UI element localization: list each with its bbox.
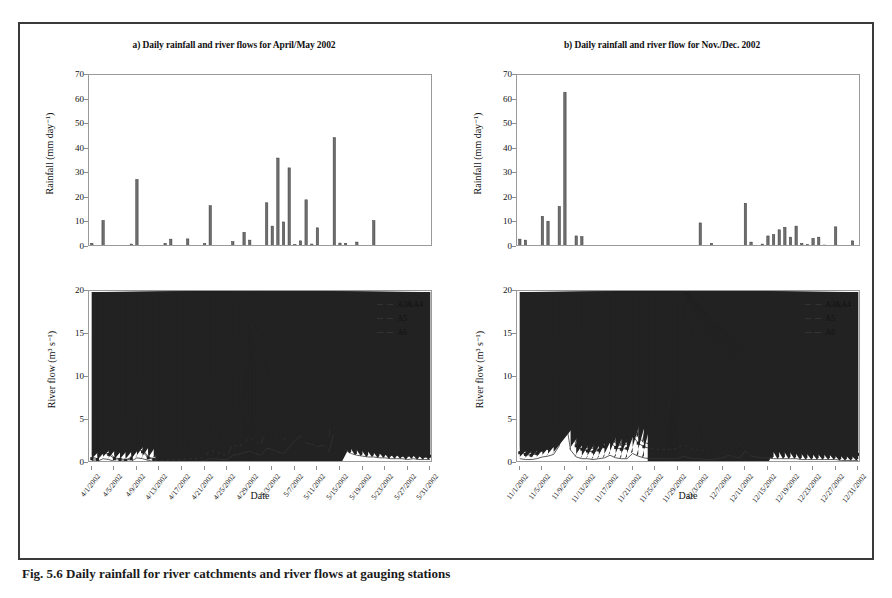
y-tick-mark [512,197,516,198]
panel-b: b) Daily rainfall and river flow for Nov… [448,24,876,562]
rain-bar [249,240,251,246]
rain-bar [806,245,808,246]
y-tick-mark [512,74,516,75]
x-tick-mark [812,466,813,470]
x-tick-mark [249,466,250,470]
x-tick-mark [226,466,227,470]
rain-bar [243,232,245,246]
legend-item-A5: A5 [805,311,851,325]
x-tick-mark [654,466,655,470]
square-icon [383,316,387,320]
rain-bar [187,239,189,246]
rain-bar [564,92,566,246]
panel-a-riverflow-subplot: River flow (m³ s⁻¹) 05101520 A3&A4A5A6 4… [20,276,448,516]
legend-label: A3&A4 [397,300,423,309]
legend-marker-square-icon [805,318,821,319]
x-tick-mark [181,466,182,470]
rain-bar [130,244,132,246]
y-tick-label: 20 [54,192,84,202]
panel-b-legend: A3&A4A5A6 [805,297,851,339]
panel-a-riverflow-yticks: 05101520 [50,290,84,462]
rain-bar [581,237,583,246]
figure-border: a) Daily rainfall and river flows for Ap… [18,22,874,560]
square-icon [811,316,815,320]
x-tick-mark [519,466,520,470]
panel-a: a) Daily rainfall and river flows for Ap… [20,24,448,562]
panel-b-rainfall-yticks: 010203040506070 [478,74,512,246]
y-tick-mark [84,74,88,75]
y-tick-label: 5 [482,414,512,424]
y-tick-mark [512,419,516,420]
rain-bar [232,242,234,246]
y-tick-mark [512,462,516,463]
legend-marker-diamond-icon [805,304,821,305]
y-tick-mark [84,148,88,149]
y-tick-label: 40 [482,143,512,153]
rain-bar [277,158,279,246]
rain-bar [344,243,346,246]
y-tick-mark [84,290,88,291]
y-tick-mark [84,333,88,334]
figure-caption: Fig. 5.6 Daily rainfall for river catchm… [22,566,722,594]
x-tick-mark [339,466,340,470]
y-tick-mark [512,376,516,377]
rain-bar [316,228,318,246]
y-tick-label: 50 [54,118,84,128]
triangle-icon [811,330,815,334]
rain-bar [744,203,746,246]
rain-bar [333,138,335,246]
rain-bar [772,235,774,246]
y-tick-label: 10 [482,216,512,226]
panel-b-riverflow-plot-area: A3&A4A5A6 [516,290,860,462]
legend-label: A3&A4 [825,300,851,309]
x-tick-mark [316,466,317,470]
rain-bar [271,226,273,246]
rain-bar [299,241,301,246]
rain-bar [750,242,752,246]
x-tick-mark [790,466,791,470]
x-tick-mark [744,466,745,470]
panel-a-rainfall-subplot: Rainfall (mm day⁻¹) 010203040506070 [20,60,448,276]
x-tick-mark [586,466,587,470]
rain-bar [203,244,205,246]
y-tick-label: 10 [54,371,84,381]
legend-item-A5: A5 [377,311,423,325]
panel-b-title: b) Daily rainfall and river flow for Nov… [448,40,876,50]
x-tick-mark [609,466,610,470]
diamond-icon [382,301,388,307]
rain-bar [164,243,166,246]
rain-bar [761,244,763,246]
y-tick-label: 40 [54,143,84,153]
rain-bar [288,168,290,246]
y-tick-label: 20 [482,192,512,202]
rain-bar [265,203,267,246]
y-tick-mark [512,99,516,100]
panel-a-title: a) Daily rainfall and river flows for Ap… [20,40,448,50]
x-tick-mark [204,466,205,470]
y-tick-mark [512,221,516,222]
legend-item-A3A4: A3&A4 [377,297,423,311]
y-tick-label: 0 [54,457,84,467]
x-tick-mark [699,466,700,470]
panel-a-rainfall-plot-area [88,74,432,246]
legend-label: A5 [397,314,407,323]
y-tick-mark [512,333,516,334]
legend-label: A6 [397,328,407,337]
rain-bar [356,242,358,246]
y-tick-label: 0 [482,457,512,467]
x-tick-mark [767,466,768,470]
diamond-icon [810,301,816,307]
x-tick-mark [113,466,114,470]
panel-b-xlabel: Date [516,490,860,501]
y-tick-mark [84,419,88,420]
y-tick-label: 10 [482,371,512,381]
legend-item-A3A4: A3&A4 [805,297,851,311]
x-tick-mark [384,466,385,470]
triangle-icon [383,330,387,334]
y-tick-label: 10 [54,216,84,226]
rain-bar [305,200,307,246]
legend-marker-square-icon [377,318,393,319]
y-tick-label: 70 [482,69,512,79]
panel-a-xlabel: Date [88,490,432,501]
y-tick-mark [84,172,88,173]
